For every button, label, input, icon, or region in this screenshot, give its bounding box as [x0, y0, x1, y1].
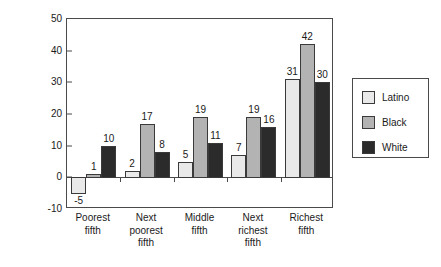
bar-black-3: [246, 117, 261, 178]
legend-swatch-icon: [362, 141, 375, 154]
legend-label: White: [382, 141, 408, 154]
bar-value-label: 31: [287, 66, 298, 77]
bar-value-label: 10: [103, 133, 114, 144]
legend-item-latino[interactable]: Latino: [362, 90, 409, 104]
bar-white-2: [208, 143, 223, 179]
bar-value-label: -5: [74, 195, 83, 206]
bar-white-1: [155, 152, 170, 178]
y-axis-tick-mark: [67, 82, 72, 83]
bar-white-3: [261, 127, 276, 179]
bar-chart-figure: Percent -1001020304050-51102178519117191…: [0, 0, 441, 267]
bar-white-0: [101, 146, 116, 179]
legend-item-white[interactable]: White: [362, 140, 408, 154]
bar-value-label: 11: [210, 130, 220, 141]
y-axis-tick-mark: [67, 145, 72, 146]
bar-value-label: 8: [159, 139, 165, 150]
y-axis-tick-mark: [67, 50, 72, 51]
bar-value-label: 42: [302, 31, 313, 42]
bar-black-1: [140, 124, 155, 179]
bar-latino-4: [285, 79, 300, 178]
bar-value-label: 5: [183, 149, 189, 160]
bar-white-4: [315, 82, 330, 178]
y-axis-tick-label: 0: [32, 172, 62, 182]
bar-value-label: 30: [317, 69, 328, 80]
bar-black-4: [300, 44, 315, 178]
y-axis-tick-label: 20: [32, 109, 62, 119]
y-axis-tick-label: 50: [32, 14, 62, 24]
y-axis-title-container: Percent: [8, 18, 22, 208]
legend-label: Latino: [382, 91, 409, 104]
bar-black-2: [193, 117, 208, 178]
y-axis-tick-label: 30: [32, 77, 62, 87]
chart-legend: LatinoBlackWhite: [352, 78, 429, 158]
bar-latino-2: [178, 162, 193, 179]
bar-value-label: 19: [248, 104, 259, 115]
y-axis-tick-label: 10: [32, 141, 62, 151]
bar-value-label: 1: [91, 161, 97, 172]
bar-value-label: 16: [263, 114, 274, 125]
bar-value-label: 19: [195, 104, 206, 115]
legend-label: Black: [382, 116, 406, 129]
bar-value-label: 2: [129, 158, 135, 169]
x-axis-category-label: Richest fifth: [271, 212, 341, 237]
x-axis-tick-mark: [120, 177, 121, 182]
plot-area: -1001020304050-511021785191171916314230: [66, 18, 333, 208]
bar-value-label: 17: [142, 111, 153, 122]
x-axis-tick-mark: [227, 177, 228, 182]
y-axis-tick-label: 40: [32, 46, 62, 56]
bar-black-0: [86, 174, 101, 178]
x-axis-tick-mark: [281, 177, 282, 182]
y-axis-tick-mark: [67, 114, 72, 115]
x-axis-tick-mark: [174, 177, 175, 182]
legend-swatch-icon: [362, 116, 375, 129]
bar-latino-1: [125, 171, 140, 178]
legend-swatch-icon: [362, 91, 375, 104]
legend-item-black[interactable]: Black: [362, 115, 406, 129]
bar-value-label: 7: [236, 142, 242, 153]
bar-latino-3: [231, 155, 246, 178]
bar-latino-0: [71, 177, 86, 194]
